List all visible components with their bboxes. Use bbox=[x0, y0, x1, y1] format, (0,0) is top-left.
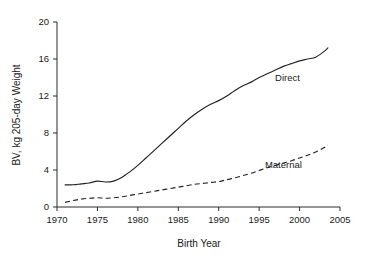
x-tick-label: 1990 bbox=[208, 214, 229, 225]
x-tick-label: 1985 bbox=[168, 214, 189, 225]
x-tick-label: 1980 bbox=[127, 214, 148, 225]
y-tick-label: 20 bbox=[38, 16, 49, 27]
series-line-maternal bbox=[65, 145, 328, 202]
data-series-group bbox=[65, 48, 328, 202]
chart-axes bbox=[57, 22, 340, 207]
y-tick-label: 12 bbox=[38, 90, 49, 101]
x-tick-label: 1970 bbox=[46, 214, 67, 225]
axis-ticks bbox=[53, 22, 340, 211]
y-tick-label: 8 bbox=[44, 127, 49, 138]
axis-spines bbox=[57, 22, 340, 207]
x-tick-label: 1995 bbox=[249, 214, 270, 225]
y-tick-label: 16 bbox=[38, 53, 49, 64]
y-tick-label: 4 bbox=[44, 164, 49, 175]
x-axis-tick-labels: 19701975198019851990199520002005 bbox=[46, 214, 350, 225]
y-tick-label: 0 bbox=[44, 201, 49, 212]
y-axis-title: BV, kg 205-day Weight bbox=[11, 64, 22, 165]
series-label-direct: Direct bbox=[275, 72, 300, 83]
x-tick-label: 1975 bbox=[87, 214, 108, 225]
series-label-maternal: Maternal bbox=[265, 159, 302, 170]
y-axis-tick-labels: 048121620 bbox=[38, 16, 49, 212]
x-axis-title: Birth Year bbox=[177, 238, 221, 249]
x-tick-label: 2005 bbox=[329, 214, 350, 225]
x-tick-label: 2000 bbox=[289, 214, 310, 225]
series-annotation-labels: DirectMaternal bbox=[265, 72, 302, 170]
chart-container: 19701975198019851990199520002005 0481216… bbox=[0, 0, 365, 259]
line-chart: 19701975198019851990199520002005 0481216… bbox=[0, 0, 365, 259]
